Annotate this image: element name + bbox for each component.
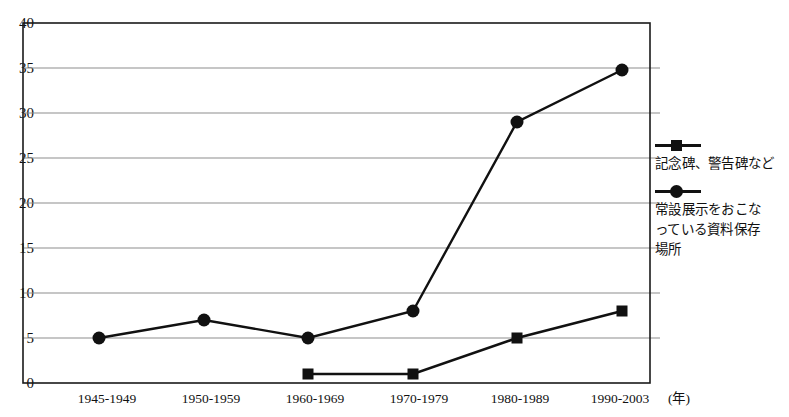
x-axis-tick-label: 1990-2003 — [591, 391, 650, 406]
legend-square-glyph — [671, 140, 682, 151]
x-axis-tick-label: 1960-1969 — [286, 391, 345, 406]
series-line-square — [308, 311, 622, 374]
x-axis-tick-label: 1980-1989 — [491, 391, 550, 406]
data-point-square — [303, 369, 314, 380]
gridlines — [23, 68, 660, 338]
data-point-square — [408, 369, 419, 380]
data-point-square — [617, 306, 628, 317]
circle-marker-icon — [655, 184, 703, 198]
data-point-circle — [93, 332, 106, 345]
square-marker-icon — [655, 138, 703, 152]
line-chart: 40 35 30 25 20 15 10 5 0 — [0, 0, 789, 417]
x-axis-tick-label: 1950-1959 — [182, 391, 241, 406]
x-axis-unit-label: (年) — [668, 391, 690, 406]
legend-label-archives: 常設展示をおこな っている資料保存 場所 — [655, 200, 789, 260]
series-markers-square — [303, 306, 628, 380]
data-point-circle — [302, 332, 315, 345]
chart-legend: 記念碑、警告碑など 常設展示をおこな っている資料保存 場所 — [655, 138, 789, 270]
data-point-circle — [198, 314, 211, 327]
legend-label-monuments: 記念碑、警告碑など — [655, 154, 789, 174]
data-point-circle — [511, 116, 524, 129]
data-point-circle — [616, 64, 629, 77]
legend-entry-monuments: 記念碑、警告碑など — [655, 138, 789, 174]
data-point-square — [512, 333, 523, 344]
x-axis-tick-label: 1970-1979 — [390, 391, 449, 406]
series-line-circle — [99, 70, 622, 338]
legend-entry-archives: 常設展示をおこな っている資料保存 場所 — [655, 184, 789, 260]
x-axis-tick-label: 1945-1949 — [78, 391, 137, 406]
legend-circle-glyph — [670, 185, 683, 198]
data-point-circle — [407, 305, 420, 318]
